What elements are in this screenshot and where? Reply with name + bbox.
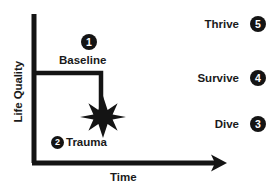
legend-marker-thrive: 5 (250, 16, 266, 32)
legend-item-survive[interactable]: Survive 4 (178, 70, 266, 86)
legend-label-survive: Survive (197, 72, 239, 84)
legend-label-thrive: Thrive (204, 18, 239, 30)
diagram-canvas: Life Quality Time 1 Baseline 2 Trauma Th… (0, 0, 271, 196)
legend-marker-survive: 4 (250, 70, 266, 86)
trauma-label: Trauma (66, 137, 107, 149)
marker-trauma-number[interactable]: 2 (51, 136, 64, 149)
legend-label-dive: Dive (215, 118, 239, 130)
x-axis-label: Time (110, 172, 137, 184)
baseline-label: Baseline (59, 55, 106, 67)
legend-marker-dive: 3 (250, 116, 266, 132)
star-burst-icon (80, 96, 126, 138)
legend-item-dive[interactable]: Dive 3 (178, 116, 266, 132)
legend-item-thrive[interactable]: Thrive 5 (178, 16, 266, 32)
marker-baseline-number[interactable]: 1 (81, 34, 97, 50)
y-axis-label: Life Quality (13, 56, 25, 128)
